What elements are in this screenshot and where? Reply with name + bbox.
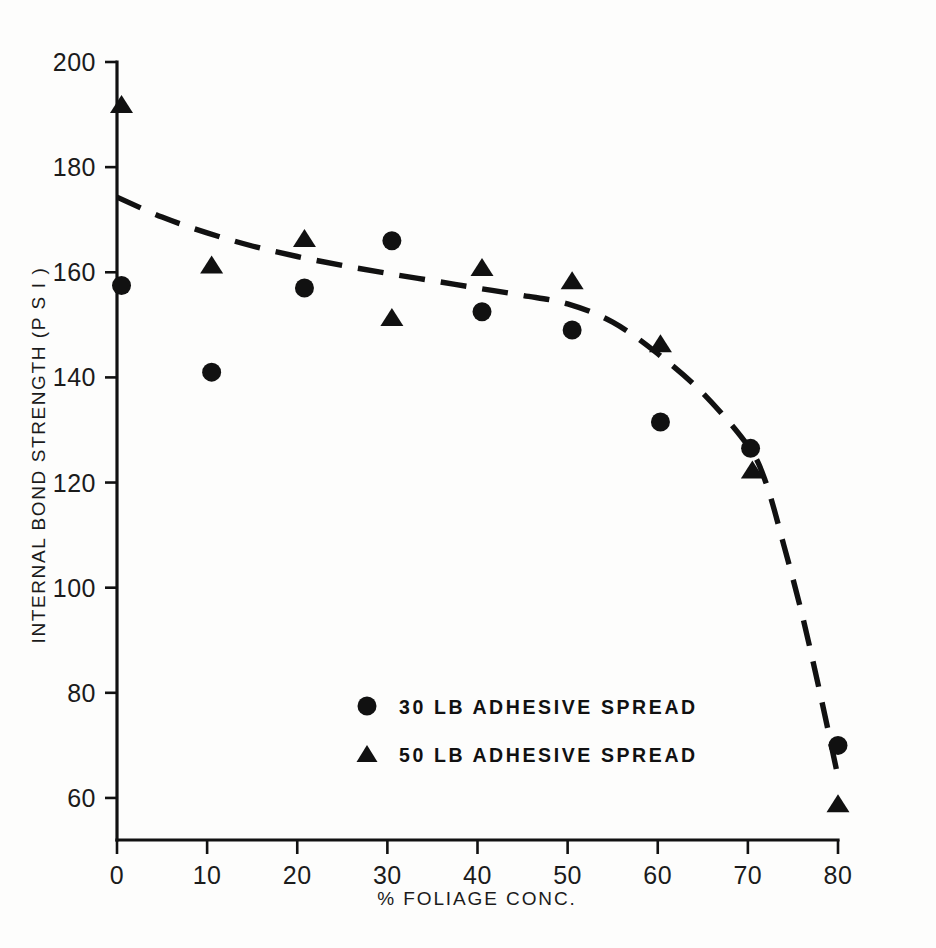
data-point-circle [741, 439, 760, 458]
x-tick-label: 30 [373, 861, 402, 889]
y-tick-label: 200 [53, 48, 96, 76]
data-point-triangle [471, 258, 494, 276]
data-point-triangle [827, 794, 850, 812]
data-point-circle [563, 321, 582, 340]
axes-group [117, 62, 838, 840]
data-point-circle [382, 231, 401, 250]
chart-figure: 6080100120140160180200 01020304050607080… [0, 0, 936, 948]
data-point-triangle [293, 229, 316, 247]
x-axis-title: % FOLIAGE CONC. [377, 888, 577, 909]
data-point-circle [473, 302, 492, 321]
x-axis-ticks: 01020304050607080 [110, 840, 853, 889]
y-tick-label: 100 [53, 574, 96, 602]
scatter-plot: 6080100120140160180200 01020304050607080… [0, 0, 936, 948]
x-tick-label: 80 [824, 861, 853, 889]
x-tick-label: 60 [643, 861, 672, 889]
y-tick-label: 60 [67, 784, 96, 812]
x-tick-label: 20 [283, 861, 312, 889]
y-tick-label: 180 [53, 153, 96, 181]
x-tick-label: 50 [553, 861, 582, 889]
legend: 30 LB ADHESIVE SPREAD 50 LB ADHESIVE SPR… [357, 696, 698, 766]
data-point-circle [202, 363, 221, 382]
data-point-triangle [200, 255, 223, 273]
data-point-triangle [110, 95, 133, 113]
y-axis-ticks: 6080100120140160180200 [53, 48, 117, 812]
x-tick-label: 0 [110, 861, 124, 889]
legend-triangle-icon [357, 745, 378, 762]
y-axis-title: INTERNAL BOND STRENGTH (P S I ) [28, 267, 49, 644]
data-point-circle [829, 736, 848, 755]
data-point-triangle [380, 308, 403, 326]
trend-curve [117, 197, 838, 777]
y-tick-label: 80 [67, 679, 96, 707]
x-tick-label: 40 [463, 861, 492, 889]
legend-circle-icon [358, 697, 377, 716]
y-tick-label: 140 [53, 363, 96, 391]
legend-label-50lb: 50 LB ADHESIVE SPREAD [399, 744, 698, 766]
data-point-circle [651, 413, 670, 432]
x-tick-label: 10 [193, 861, 222, 889]
series-30-lb-markers [112, 231, 847, 755]
data-point-triangle [649, 334, 672, 352]
y-tick-label: 120 [53, 469, 96, 497]
y-tick-label: 160 [53, 258, 96, 286]
legend-label-30lb: 30 LB ADHESIVE SPREAD [399, 696, 698, 718]
data-point-circle [112, 276, 131, 295]
x-tick-label: 70 [733, 861, 762, 889]
data-point-triangle [561, 271, 584, 289]
data-point-circle [295, 279, 314, 298]
